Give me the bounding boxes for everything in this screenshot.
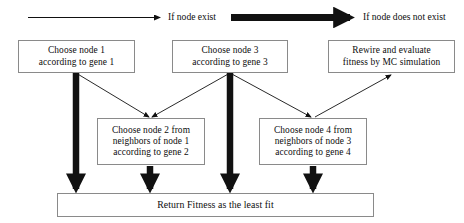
node-choose-node-4: Choose node 4 from neighbors of node 3 a…	[259, 118, 367, 165]
node-rewire-and-evaluate-label: Rewire and evaluate fitness by MC simula…	[343, 45, 440, 67]
legend-label-if-node-does-not-exist: If node does not exist	[363, 11, 446, 22]
node-choose-node-3-label: Choose node 3 according to gene 3	[192, 45, 268, 67]
node-choose-node-1: Choose node 1 according to gene 1	[18, 40, 135, 73]
node-choose-node-3: Choose node 3 according to gene 3	[172, 40, 288, 73]
node-choose-node-4-label: Choose node 4 from neighbors of node 3 a…	[274, 125, 352, 158]
edge-node3-to-node4	[230, 73, 311, 117]
node-choose-node-1-label: Choose node 1 according to gene 1	[39, 45, 115, 67]
node-choose-node-2-label: Choose node 2 from neighbors of node 1 a…	[112, 125, 190, 158]
node-choose-node-2: Choose node 2 from neighbors of node 1 a…	[97, 118, 205, 165]
flowchart-diagram: If node exist If node does not exist Cho…	[0, 0, 464, 223]
legend-label-if-node-exist: If node exist	[168, 11, 216, 22]
node-return-fitness: Return Fitness as the least fit	[57, 193, 374, 217]
connector-layer	[0, 0, 464, 223]
node-return-fitness-label: Return Fitness as the least fit	[157, 199, 274, 211]
edge-node3-to-node2	[152, 73, 230, 117]
node-rewire-and-evaluate: Rewire and evaluate fitness by MC simula…	[328, 40, 455, 73]
edge-node4-to-rewire	[315, 75, 391, 117]
edge-node1-to-node2	[76, 73, 149, 117]
